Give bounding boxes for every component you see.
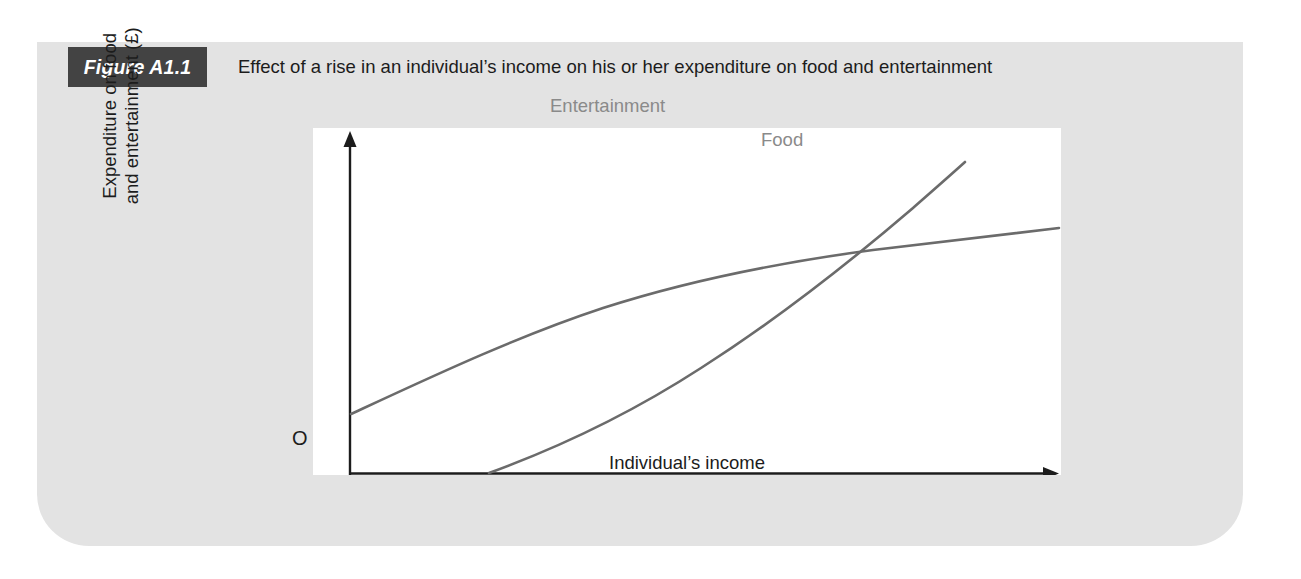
figure-panel: Figure A1.1 Effect of a rise in an indiv… <box>37 42 1243 546</box>
y-axis-title: Expenditure on food and entertainment (£… <box>99 0 143 236</box>
y-axis-title-line-1: Expenditure on food <box>99 0 121 236</box>
curve-entertainment <box>489 162 965 473</box>
plot-area <box>313 128 1061 475</box>
figure-caption-text: Effect of a rise in an individual’s inco… <box>238 47 992 87</box>
figure-caption-bar: Figure A1.1 Effect of a rise in an indiv… <box>68 47 992 87</box>
figure-root: Figure A1.1 Effect of a rise in an indiv… <box>0 0 1301 579</box>
y-axis-title-line-2: and entertainment (£) <box>121 0 143 236</box>
series-label-food: Food <box>761 129 803 151</box>
curve-food <box>351 228 1059 414</box>
y-axis <box>344 131 357 475</box>
series-label-entertainment: Entertainment <box>550 95 665 117</box>
plot-svg <box>313 128 1061 475</box>
x-axis-title: Individual’s income <box>313 452 1061 474</box>
origin-label: O <box>292 427 308 450</box>
